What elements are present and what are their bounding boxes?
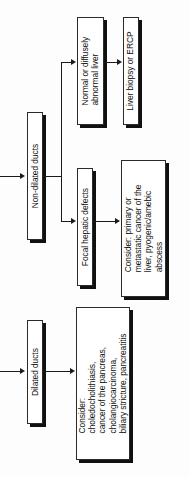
edge-dilated-to-consider <box>43 371 72 372</box>
node-non-dilated-ducts: Non-dilated ducts <box>27 112 43 240</box>
edge-entry-to-dilated-ducts <box>0 371 21 372</box>
node-consider-focal-hepatic: Consider: primary or metastatic cancer o… <box>121 160 166 297</box>
arrowhead-focal-defects <box>71 218 76 224</box>
edge-focal-defects-to-consider <box>93 221 117 222</box>
node-consider-dilated-ducts-label: Consider: choledocholithiasis, cancer of… <box>78 334 129 434</box>
node-focal-hepatic-defects-label: Focal hepatic defects <box>80 188 90 266</box>
arrowhead-normal-liver <box>71 59 76 65</box>
arrowhead-consider-focal <box>115 218 120 224</box>
node-dilated-ducts: Dilated ducts <box>27 320 43 424</box>
node-consider-focal-hepatic-label: Consider: primary or metastatic cancer o… <box>123 185 164 273</box>
arrowhead-liver-biopsy <box>117 59 122 65</box>
node-dilated-ducts-label: Dilated ducts <box>30 348 40 396</box>
edge-entry-to-non-dilated-ducts <box>0 176 21 177</box>
node-consider-dilated-ducts: Consider: choledocholithiasis, cancer of… <box>76 307 130 460</box>
node-normal-or-diffusely-abnormal-liver-label: Normal or diffusely abnormal liver <box>80 37 100 106</box>
node-liver-biopsy-or-ercp: Liver biopsy or ERCP <box>123 17 139 125</box>
node-liver-biopsy-or-ercp-label: Liver biopsy or ERCP <box>126 31 136 110</box>
edge-non-dilated-stem <box>43 176 62 177</box>
node-non-dilated-ducts-label: Non-dilated ducts <box>30 144 40 208</box>
arrowhead-consider-dilated <box>70 368 75 374</box>
node-focal-hepatic-defects: Focal hepatic defects <box>77 168 93 286</box>
node-normal-or-diffusely-abnormal-liver: Normal or diffusely abnormal liver <box>77 17 104 125</box>
flowchart-canvas: Non-dilated ducts Normal or diffusely ab… <box>0 0 189 477</box>
arrowhead-entry-non-dilated <box>20 173 25 179</box>
arrowhead-entry-dilated <box>20 368 25 374</box>
edge-non-dilated-split-bus <box>61 62 62 222</box>
